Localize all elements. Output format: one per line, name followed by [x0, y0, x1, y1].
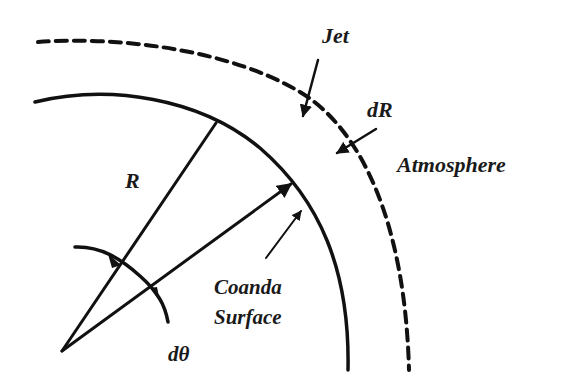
label-atmosphere: Atmosphere: [395, 152, 506, 177]
label-dtheta: dθ: [168, 342, 190, 366]
dtheta-arrowhead-lower: [150, 287, 160, 302]
coanda-pointer-arrow: [266, 211, 301, 258]
coanda-surface-arc: [35, 94, 348, 370]
label-coanda: Coanda: [214, 275, 282, 299]
jet-pointer-arrow: [303, 60, 318, 116]
label-jet: Jet: [321, 23, 350, 48]
label-surface: Surface: [214, 305, 282, 329]
label-dr: dR: [367, 97, 393, 122]
coanda-diagram: Jet dR Atmosphere R Coanda Surface dθ: [0, 0, 561, 391]
radius-line-r: [62, 123, 216, 351]
label-r: R: [124, 168, 140, 193]
